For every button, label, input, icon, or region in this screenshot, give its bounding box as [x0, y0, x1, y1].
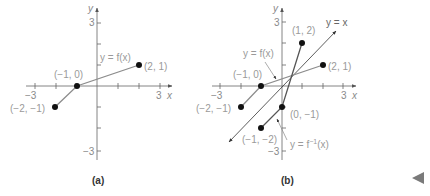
caption-b: (b): [281, 175, 294, 186]
x-tick-3: 3: [156, 90, 162, 101]
y-tick-neg3: −3: [83, 146, 95, 157]
panel-b: y 3 −3 −3 3 x y = x (1, 2) (2, 1) (−1, 0…: [196, 3, 358, 186]
point-neg2-neg1: [52, 104, 58, 110]
label-point-neg1-0: (−1, 0): [54, 69, 83, 80]
y-ticks: [97, 23, 101, 151]
left-triangle-icon[interactable]: [412, 172, 424, 184]
label-point-neg1-neg2: (−1, −2): [242, 134, 277, 145]
point-neg1-neg2: [258, 125, 264, 131]
label-point-0-neg1: (0, −1): [290, 109, 319, 120]
label-point-2-1: (2, 1): [144, 61, 167, 72]
point-neg1-0: [258, 83, 264, 89]
y-axis-label: y: [87, 3, 94, 14]
x-tick-neg3: −3: [211, 90, 223, 101]
label-point-2-1: (2, 1): [328, 61, 351, 72]
label-point-neg2-neg1: (−2, −1): [196, 103, 231, 114]
y-tick-3: 3: [274, 17, 280, 28]
label-curve-f: y = f(x): [100, 52, 131, 63]
point-neg1-0: [74, 83, 80, 89]
x-tick-neg3: −3: [25, 90, 37, 101]
panel-a: y 3 −3 −3 3 x y = f(x) (2, 1) (−1, 0) (−…: [10, 3, 173, 186]
point-neg2-neg1: [238, 104, 244, 110]
x-axis-label: x: [166, 90, 173, 101]
point-2-1: [320, 62, 326, 68]
label-curve-f: y = f(x): [243, 48, 274, 59]
x-axis-label: x: [351, 90, 358, 101]
label-point-1-2: (1, 2): [292, 25, 315, 36]
y-tick-neg3: −3: [268, 146, 280, 157]
point-2-1: [136, 62, 142, 68]
figure: y 3 −3 −3 3 x y = f(x) (2, 1) (−1, 0) (−…: [0, 0, 430, 196]
x-tick-3: 3: [341, 90, 347, 101]
label-y-equals-x: y = x: [326, 17, 347, 28]
point-0-neg1: [279, 104, 285, 110]
label-point-neg2-neg1: (−2, −1): [10, 103, 45, 114]
y-tick-3: 3: [89, 17, 95, 28]
point-1-2: [299, 40, 305, 46]
caption-a: (a): [92, 175, 104, 186]
y-axis-label: y: [272, 3, 279, 14]
label-point-neg1-0: (−1, 0): [233, 69, 262, 80]
label-curve-f-inverse: y = f−1(x): [290, 138, 329, 150]
callout-f: [265, 62, 276, 79]
